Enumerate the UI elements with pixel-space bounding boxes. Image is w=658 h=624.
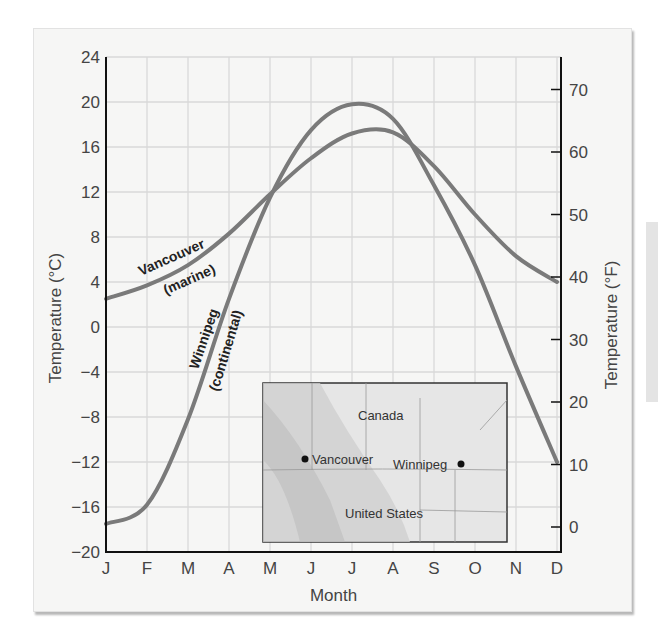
y-tick-label-right: 40 <box>569 268 588 287</box>
x-tick-label: N <box>510 559 522 578</box>
y-tick-label-right: 70 <box>569 81 588 100</box>
x-tick-label: A <box>223 559 235 578</box>
x-tick-label: J <box>102 559 111 578</box>
x-tick-label: J <box>307 559 316 578</box>
y-tick-label-left: 16 <box>81 138 100 157</box>
x-tick-label: O <box>468 559 481 578</box>
map-label-canada: Canada <box>358 408 404 423</box>
y-tick-label-right: 10 <box>569 456 588 475</box>
x-tick-label: A <box>387 559 399 578</box>
y-tick-label-left: 4 <box>91 273 100 292</box>
y-tick-label-right: 0 <box>569 518 578 537</box>
y-tick-label-left: 24 <box>81 48 100 67</box>
y-tick-label-right: 30 <box>569 331 588 350</box>
y-tick-label-left: 12 <box>81 183 100 202</box>
y-tick-label-left: −12 <box>71 453 100 472</box>
y-axis-title-right: Temperature (°F) <box>602 261 621 390</box>
x-axis-title: Month <box>310 586 357 605</box>
x-tick-label: S <box>428 559 439 578</box>
map-label-vancouver: Vancouver <box>312 452 374 467</box>
winnipeg-dot <box>458 461 465 468</box>
x-tick-label: M <box>263 559 277 578</box>
y-tick-label-left: −8 <box>81 408 100 427</box>
y-axis-title-left: Temperature (°C) <box>46 253 65 384</box>
y-tick-label-left: 8 <box>91 228 100 247</box>
y-tick-label-left: −16 <box>71 498 100 517</box>
map-label-united-states: United States <box>345 506 424 521</box>
y-tick-label-left: −4 <box>81 363 100 382</box>
x-tick-label: D <box>551 559 563 578</box>
y-tick-label-right: 20 <box>569 393 588 412</box>
y-tick-label-right: 50 <box>569 206 588 225</box>
y-tick-label-left: 20 <box>81 93 100 112</box>
x-tick-label: J <box>348 559 357 578</box>
y-tick-label-left: 0 <box>91 318 100 337</box>
x-tick-label: F <box>142 559 152 578</box>
vancouver-curve <box>106 129 557 299</box>
map-label-winnipeg: Winnipeg <box>393 457 447 472</box>
x-tick-label: M <box>181 559 195 578</box>
temperature-chart: CanadaUnited StatesVancouverWinnipegVanc… <box>0 0 658 624</box>
y-tick-label-right: 60 <box>569 143 588 162</box>
y-tick-label-left: −20 <box>71 543 100 562</box>
vancouver-dot <box>302 456 309 463</box>
